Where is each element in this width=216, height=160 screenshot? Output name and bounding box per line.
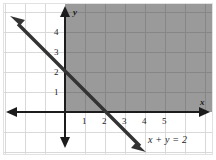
equation-label: x + y = 2 xyxy=(148,135,187,145)
x-tick-label-4: 4 xyxy=(142,117,147,126)
x-tick-label-1: 1 xyxy=(82,117,87,126)
y-tick-label-4: 4 xyxy=(54,28,59,37)
graph-figure: y x 1 2 3 4 1 2 3 4 5 x + y = 2 xyxy=(0,0,216,160)
y-tick-label-2: 2 xyxy=(54,68,59,77)
x-tick-label-5: 5 xyxy=(162,117,167,126)
x-tick-label-3: 3 xyxy=(122,117,127,126)
y-tick-label-1: 1 xyxy=(54,88,59,97)
x-tick-label-2: 2 xyxy=(102,117,107,126)
y-axis-label: y xyxy=(73,8,77,17)
y-tick-label-3: 3 xyxy=(54,48,59,57)
x-axis-label: x xyxy=(200,98,205,107)
shaded-region-upper xyxy=(65,4,212,112)
